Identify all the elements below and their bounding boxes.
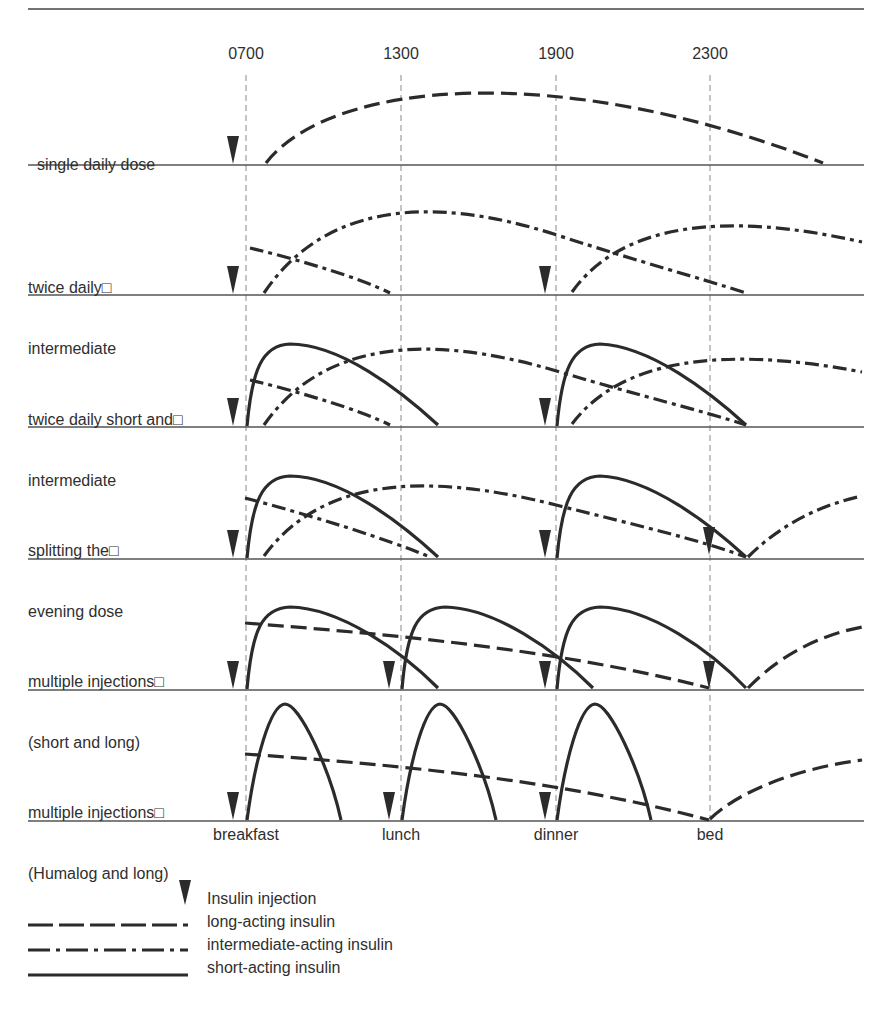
injection-icon (227, 530, 239, 558)
short-acting-curve (557, 476, 746, 558)
row-label-line1: splitting the□ (28, 541, 123, 560)
row-label-twice-daily-short-intermediate: twice daily short and□ intermediate (28, 372, 183, 509)
meal-label-bed: bed (697, 826, 724, 844)
row-label-line1: multiple injections□ (28, 803, 169, 822)
row-label-line1: twice daily□ (28, 278, 116, 297)
row-label-line2: evening dose (28, 602, 123, 621)
time-label-1900: 1900 (538, 45, 574, 63)
legend-long-label: long-acting insulin (207, 912, 335, 931)
injection-icon (539, 398, 551, 426)
meal-label-lunch: lunch (382, 826, 420, 844)
meal-label-breakfast: breakfast (213, 826, 279, 844)
short-acting-curve (557, 344, 746, 426)
injection-icon (539, 792, 551, 820)
intermediate-acting-curve (250, 380, 390, 425)
injection-icon (539, 530, 551, 558)
time-label-2300: 2300 (692, 45, 728, 63)
injection-icon (227, 398, 239, 426)
short-acting-curve (247, 704, 341, 820)
intermediate-acting-curve (264, 349, 746, 425)
intermediate-acting-curve (572, 359, 862, 424)
meal-label-dinner: dinner (534, 826, 578, 844)
intermediate-acting-curve (264, 486, 746, 557)
legend-injection-icon (179, 880, 191, 905)
row-label-splitting-evening: splitting the□ evening dose (28, 503, 123, 640)
row-label-line2: intermediate (28, 471, 183, 490)
time-label-0700: 0700 (228, 45, 264, 63)
short-acting-curve (247, 344, 438, 426)
row-label-line2: intermediate (28, 339, 116, 358)
row-label-line1: twice daily short and□ (28, 410, 183, 429)
row-label-single-daily: single daily dose (28, 136, 155, 174)
legend-intermediate-label: intermediate-acting insulin (207, 935, 393, 954)
time-guides (246, 75, 710, 825)
long-acting-curve (710, 760, 862, 819)
short-acting-curve (247, 476, 438, 558)
row-label-line1: single daily dose (37, 156, 155, 173)
short-acting-curve (557, 607, 746, 689)
intermediate-acting-curve (572, 226, 862, 292)
intermediate-acting-curve (250, 248, 390, 293)
legend-injection-label: Insulin injection (207, 889, 316, 908)
row-label-line1: multiple injections□ (28, 672, 164, 691)
injection-icon (227, 792, 239, 820)
row-label-line2: (Humalog and long) (28, 864, 169, 883)
intermediate-acting-curve (264, 212, 746, 293)
row-label-multiple-short-long: multiple injections□ (short and long) (28, 634, 164, 771)
long-acting-curve (748, 627, 862, 688)
long-acting-curve (245, 623, 709, 688)
injection-icon (539, 266, 551, 294)
injection-icon (703, 661, 715, 689)
injection-icon (227, 136, 239, 164)
injection-icon (227, 266, 239, 294)
row-label-twice-daily-intermediate: twice daily□ intermediate (28, 240, 116, 377)
short-acting-curve (402, 704, 496, 820)
injection-icon (383, 792, 395, 820)
long-acting-curve (266, 93, 823, 163)
row-label-line2: (short and long) (28, 733, 164, 752)
injection-icon (227, 661, 239, 689)
intermediate-acting-curve (748, 496, 862, 557)
time-label-1300: 1300 (383, 45, 419, 63)
legend-short-label: short-acting insulin (207, 958, 340, 977)
injection-icon (539, 661, 551, 689)
row-label-multiple-humalog-long: multiple injections□ (Humalog and long) (28, 765, 169, 902)
injection-icon (383, 661, 395, 689)
